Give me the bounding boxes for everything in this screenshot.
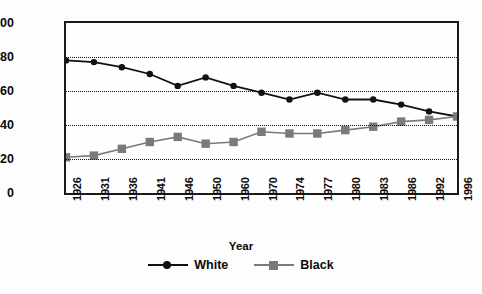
- x-tick-1983: 1983: [378, 177, 390, 201]
- data-point-black-1926: [66, 153, 70, 161]
- x-tick-1946: 1946: [183, 177, 195, 201]
- data-point-white-1946: [175, 83, 181, 89]
- data-point-white-1983: [370, 96, 376, 102]
- series-canvas: [66, 23, 457, 193]
- data-point-black-1950: [201, 140, 209, 148]
- y-tick-100: 100: [0, 16, 14, 30]
- data-point-white-1931: [91, 59, 97, 65]
- x-tick-1992: 1992: [434, 177, 446, 201]
- x-tick-1931: 1931: [99, 177, 111, 201]
- data-point-white-1941: [147, 71, 153, 77]
- x-tick-1986: 1986: [406, 177, 418, 201]
- y-tick-80: 80: [0, 50, 14, 64]
- legend-label-black: Black: [300, 258, 333, 272]
- data-point-white-1936: [119, 64, 125, 70]
- gridline-40: [66, 125, 457, 126]
- data-point-black-1936: [118, 145, 126, 153]
- data-point-black-1970: [257, 128, 265, 136]
- x-tick-1970: 1970: [267, 177, 279, 201]
- gridline-80: [66, 57, 457, 58]
- x-tick-1974: 1974: [294, 177, 306, 201]
- y-tick-0: 0: [0, 186, 14, 200]
- x-tick-1926: 1926: [71, 177, 83, 201]
- x-tick-1980: 1980: [350, 177, 362, 201]
- x-tick-1936: 1936: [127, 177, 139, 201]
- x-tick-1996: 1996: [462, 177, 474, 201]
- legend-entry-black[interactable]: Black: [254, 258, 333, 272]
- gridline-20: [66, 159, 457, 160]
- data-point-black-1974: [285, 129, 293, 137]
- legend-marker-circle-icon: [163, 261, 171, 269]
- data-point-black-1977: [313, 129, 321, 137]
- plot-area: [64, 21, 459, 195]
- legend-swatch-white: [148, 259, 188, 271]
- y-tick-20: 20: [0, 152, 14, 166]
- data-point-white-1926: [66, 57, 69, 63]
- x-tick-1977: 1977: [322, 177, 334, 201]
- data-point-white-1974: [286, 96, 292, 102]
- data-point-black-1980: [341, 126, 349, 134]
- x-tick-1941: 1941: [155, 177, 167, 201]
- gridline-60: [66, 91, 457, 92]
- data-point-white-1960: [230, 83, 236, 89]
- chart-figure: Percentage of All Admissions 02040608010…: [0, 0, 482, 294]
- data-point-black-1996: [453, 112, 457, 120]
- data-point-black-1983: [369, 123, 377, 131]
- data-point-white-1950: [202, 74, 208, 80]
- data-point-black-1960: [229, 138, 237, 146]
- legend-label-white: White: [194, 258, 228, 272]
- y-tick-40: 40: [0, 118, 14, 132]
- legend-marker-square-icon: [269, 261, 278, 270]
- data-point-black-1946: [174, 133, 182, 141]
- data-point-white-1992: [426, 108, 432, 114]
- data-point-black-1941: [146, 138, 154, 146]
- legend-swatch-black: [254, 259, 294, 271]
- legend-entry-white[interactable]: White: [148, 258, 228, 272]
- y-tick-60: 60: [0, 84, 14, 98]
- data-point-white-1980: [342, 96, 348, 102]
- data-point-black-1992: [425, 116, 433, 124]
- plot-inner: [66, 23, 457, 193]
- x-tick-1960: 1960: [239, 177, 251, 201]
- series-line-white: [66, 60, 457, 116]
- data-point-white-1986: [398, 101, 404, 107]
- x-tick-1950: 1950: [211, 177, 223, 201]
- chart-legend: WhiteBlack: [0, 258, 482, 272]
- x-axis-title: Year: [0, 240, 482, 252]
